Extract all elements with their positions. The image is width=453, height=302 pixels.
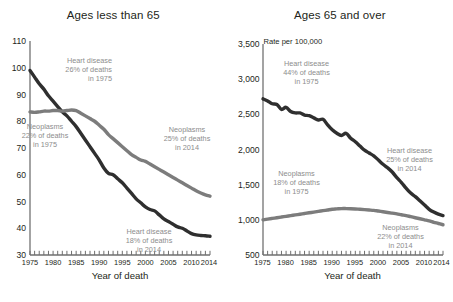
y-tick-right-2: 2,500 <box>227 109 260 119</box>
annotation-line: in 2014 <box>151 143 223 152</box>
annotation-line: in 1975 <box>269 77 345 86</box>
x-tick-left-1990: 1990 <box>91 258 107 267</box>
annotation-line: in 2014 <box>372 164 448 173</box>
x-tick-left-1985: 1985 <box>68 258 84 267</box>
annotation-line: 22% of deaths <box>363 232 439 241</box>
annotation-line: in 1975 <box>26 74 112 83</box>
annotation-line: 18% of deaths <box>112 236 186 245</box>
x-tick-left-2014: 2014 <box>201 258 217 267</box>
x-tick-right-2005: 2005 <box>393 258 409 267</box>
x-tick-left-2000: 2000 <box>137 258 153 267</box>
annotation-line: in 1975 <box>259 187 335 196</box>
annotation-line: 26% of deaths <box>26 65 112 74</box>
annotation-line: Heart disease <box>112 227 186 236</box>
annotation-neoplasms-1975-left: Neoplasms 22% of deaths in 1975 <box>10 122 80 150</box>
x-axis-title-left: Year of death <box>92 270 149 281</box>
annotation-line: Neoplasms <box>151 125 223 134</box>
x-tick-left-2005: 2005 <box>160 258 176 267</box>
y-tick-right-5: 1,000 <box>227 215 260 225</box>
annotation-line: Neoplasms <box>259 169 335 178</box>
annotation-line: 44% of deaths <box>269 68 345 77</box>
annotation-line: Neoplasms <box>10 122 80 131</box>
y-tick-right-0: 3,500 <box>227 39 260 49</box>
x-tick-right-2000: 2000 <box>370 258 386 267</box>
y-tick-left-5: 60 <box>0 170 26 180</box>
x-tick-left-1980: 1980 <box>45 258 61 267</box>
annotation-heart-disease-1975-right: Heart disease 44% of deaths in 1975 <box>269 59 345 87</box>
x-axis-title-right: Year of death <box>324 270 381 281</box>
x-tick-left-2010: 2010 <box>183 258 199 267</box>
panel-ages-65-and-over: Ages 65 and over Rate per 100,000 3,500 … <box>227 0 453 302</box>
annotation-line: 25% of deaths <box>151 134 223 143</box>
y-tick-left-1: 100 <box>0 63 26 73</box>
annotation-line: Neoplasms <box>363 223 439 232</box>
x-tick-right-1995: 1995 <box>347 258 363 267</box>
annotation-heart-disease-2014-right: Heart disease 25% of deaths in 2014 <box>372 146 448 174</box>
x-tick-right-2014: 2014 <box>433 258 449 267</box>
y-tick-right-1: 3,000 <box>227 74 260 84</box>
x-tick-right-1980: 1980 <box>277 258 293 267</box>
annotation-heart-disease-2014-left: Heart disease 18% of deaths in 2014 <box>112 227 186 255</box>
annotation-line: 25% of deaths <box>372 155 448 164</box>
annotation-line: 18% of deaths <box>259 178 335 187</box>
annotation-line: in 2014 <box>363 241 439 250</box>
y-tick-left-0: 110 <box>0 36 26 46</box>
x-tick-left-1975: 1975 <box>22 258 38 267</box>
y-tick-left-6: 50 <box>0 197 26 207</box>
y-tick-right-3: 2,000 <box>227 145 260 155</box>
annotation-line: 22% of deaths <box>10 131 80 140</box>
annotation-line: in 2014 <box>112 245 186 254</box>
line-heart-disease-left <box>30 70 210 236</box>
x-tick-right-1975: 1975 <box>254 258 270 267</box>
x-tick-left-1995: 1995 <box>114 258 130 267</box>
annotation-neoplasms-2014-right: Neoplasms 22% of deaths in 2014 <box>363 223 439 251</box>
x-tick-right-1985: 1985 <box>300 258 316 267</box>
y-tick-left-7: 40 <box>0 223 26 233</box>
x-tick-right-1990: 1990 <box>323 258 339 267</box>
annotation-heart-disease-1975-left: Heart disease 26% of deaths in 1975 <box>26 56 112 84</box>
panel-ages-less-than-65: Ages less than 65 110 100 90 80 70 60 50… <box>0 0 227 302</box>
annotation-line: Heart disease <box>372 146 448 155</box>
annotation-line: Heart disease <box>269 59 345 68</box>
annotation-neoplasms-2014-left: Neoplasms 25% of deaths in 2014 <box>151 125 223 153</box>
mortality-figure: Ages less than 65 110 100 90 80 70 60 50… <box>0 0 453 302</box>
annotation-line: in 1975 <box>10 140 80 149</box>
panel-title-left: Ages less than 65 <box>0 9 227 21</box>
y-tick-right-4: 1,500 <box>227 180 260 190</box>
x-tick-right-2010: 2010 <box>416 258 432 267</box>
y-tick-left-2: 90 <box>0 90 26 100</box>
annotation-line: Heart disease <box>26 56 112 65</box>
panel-title-right: Ages 65 and over <box>227 9 453 21</box>
annotation-neoplasms-1975-right: Neoplasms 18% of deaths in 1975 <box>259 169 335 197</box>
